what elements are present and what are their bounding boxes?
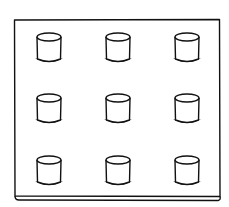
peg [104, 94, 132, 123]
peg-board-figure [0, 0, 229, 207]
peg-top [106, 156, 130, 164]
peg [104, 33, 132, 62]
peg-top [37, 33, 61, 41]
peg-top [175, 33, 199, 41]
peg-top [106, 94, 130, 102]
peg [104, 156, 132, 185]
peg-grid [35, 33, 201, 185]
peg-top [175, 156, 199, 164]
peg [35, 156, 63, 185]
peg-top [175, 94, 199, 102]
peg [173, 33, 201, 62]
peg-top [37, 94, 61, 102]
peg [35, 94, 63, 123]
peg [173, 156, 201, 185]
peg-top [106, 33, 130, 41]
peg-top [37, 156, 61, 164]
peg [35, 33, 63, 62]
peg [173, 94, 201, 123]
